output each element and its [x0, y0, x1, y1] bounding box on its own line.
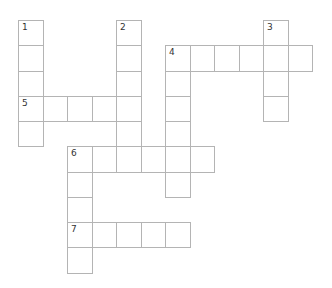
- crossword-cell[interactable]: 3: [263, 20, 289, 46]
- crossword-cell[interactable]: [43, 96, 68, 122]
- crossword-cell[interactable]: [67, 197, 93, 223]
- crossword-cell[interactable]: [92, 222, 117, 248]
- crossword-cell[interactable]: [116, 96, 142, 122]
- crossword-cell[interactable]: [116, 146, 142, 173]
- crossword-cell[interactable]: 4: [165, 45, 191, 72]
- clue-number: 3: [267, 23, 273, 32]
- crossword-cell[interactable]: [165, 222, 191, 248]
- crossword-cell[interactable]: [18, 45, 44, 72]
- crossword-cell[interactable]: [239, 45, 264, 72]
- clue-number: 6: [71, 149, 77, 158]
- clue-number: 7: [71, 225, 77, 234]
- crossword-cell[interactable]: [67, 172, 93, 198]
- crossword-grid: 1523467: [0, 0, 332, 288]
- clue-number: 2: [120, 23, 126, 32]
- clue-number: 5: [22, 99, 28, 108]
- crossword-cell[interactable]: [165, 71, 191, 97]
- crossword-cell[interactable]: 2: [116, 20, 142, 46]
- clue-number: 1: [22, 23, 28, 32]
- crossword-cell[interactable]: [141, 222, 166, 248]
- crossword-cell[interactable]: [165, 146, 191, 173]
- crossword-cell[interactable]: [190, 146, 215, 173]
- crossword-cell[interactable]: [67, 247, 93, 274]
- crossword-cell[interactable]: [116, 71, 142, 97]
- crossword-cell[interactable]: [116, 121, 142, 147]
- crossword-cell[interactable]: [288, 45, 313, 72]
- crossword-cell[interactable]: 6: [67, 146, 93, 173]
- crossword-cell[interactable]: [67, 96, 93, 122]
- crossword-cell[interactable]: [263, 45, 289, 72]
- crossword-cell[interactable]: [165, 172, 191, 198]
- crossword-cell[interactable]: [263, 96, 289, 122]
- crossword-cell[interactable]: [263, 71, 289, 97]
- crossword-cell[interactable]: [165, 121, 191, 147]
- crossword-cell[interactable]: [116, 45, 142, 72]
- crossword-cell[interactable]: [116, 222, 142, 248]
- crossword-cell[interactable]: [18, 71, 44, 97]
- crossword-cell[interactable]: 5: [18, 96, 44, 122]
- clue-number: 4: [169, 48, 175, 57]
- crossword-cell[interactable]: [214, 45, 240, 72]
- crossword-cell[interactable]: 7: [67, 222, 93, 248]
- crossword-cell[interactable]: [165, 96, 191, 122]
- crossword-cell[interactable]: [92, 146, 117, 173]
- crossword-cell[interactable]: [141, 146, 166, 173]
- crossword-cell[interactable]: 1: [18, 20, 44, 46]
- crossword-cell[interactable]: [92, 96, 117, 122]
- crossword-cell[interactable]: [18, 121, 44, 147]
- crossword-cell[interactable]: [190, 45, 215, 72]
